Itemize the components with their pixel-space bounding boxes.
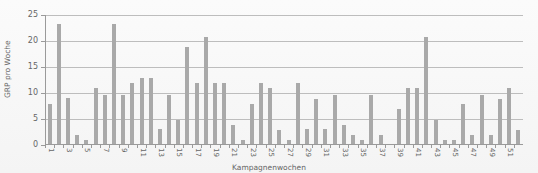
bar-week-26 bbox=[277, 130, 281, 145]
bar-week-17 bbox=[195, 83, 199, 145]
bar-week-50 bbox=[498, 99, 502, 145]
bar-week-11 bbox=[140, 78, 144, 145]
bar-week-29 bbox=[305, 129, 309, 145]
x-tick-mark bbox=[238, 145, 239, 148]
bar-week-46 bbox=[461, 104, 465, 145]
x-tick-label: 39 bbox=[396, 148, 403, 157]
x-axis-label: Kampagnenwochen bbox=[0, 163, 538, 172]
bar-week-20 bbox=[222, 83, 226, 145]
bar-week-48 bbox=[480, 95, 484, 145]
x-tick-mark bbox=[376, 145, 377, 148]
x-tick-label: 19 bbox=[212, 148, 219, 157]
bar-week-8 bbox=[112, 24, 116, 145]
x-tick-label: 41 bbox=[414, 148, 421, 157]
x-tick-label: 13 bbox=[157, 148, 164, 157]
bar-week-21 bbox=[231, 125, 235, 145]
gridline bbox=[45, 41, 523, 42]
x-tick-label: 29 bbox=[304, 148, 311, 157]
gridline bbox=[45, 119, 523, 120]
bar-week-16 bbox=[185, 47, 189, 145]
bar-week-23 bbox=[250, 104, 254, 145]
y-tick-label: 10 bbox=[14, 89, 38, 97]
x-tick-label: 1 bbox=[47, 148, 54, 152]
x-tick-mark bbox=[192, 145, 193, 148]
x-tick-label: 35 bbox=[359, 148, 366, 157]
bar-week-7 bbox=[103, 95, 107, 145]
bar-week-25 bbox=[268, 88, 272, 145]
x-tick-label: 51 bbox=[506, 148, 513, 157]
x-tick-label: 15 bbox=[175, 148, 182, 157]
bar-week-30 bbox=[314, 99, 318, 145]
x-tick-mark bbox=[477, 145, 478, 148]
bar-week-28 bbox=[296, 83, 300, 145]
bar-week-31 bbox=[323, 129, 327, 145]
gridline bbox=[45, 93, 523, 94]
x-tick-mark bbox=[330, 145, 331, 148]
x-tick-mark bbox=[284, 145, 285, 148]
x-tick-label: 27 bbox=[286, 148, 293, 157]
x-tick-label: 49 bbox=[488, 148, 495, 157]
x-tick-label: 33 bbox=[341, 148, 348, 157]
x-tick-label: 23 bbox=[249, 148, 256, 157]
plot-area bbox=[45, 15, 523, 145]
x-tick-mark bbox=[431, 145, 432, 148]
bar-week-33 bbox=[342, 125, 346, 145]
x-tick-mark bbox=[137, 145, 138, 148]
x-tick-label: 21 bbox=[230, 148, 237, 157]
bar-week-39 bbox=[397, 109, 401, 145]
x-tick-label: 3 bbox=[65, 148, 72, 152]
bar-week-12 bbox=[149, 78, 153, 145]
y-tick-label: 5 bbox=[14, 115, 38, 123]
bar-week-13 bbox=[158, 129, 162, 145]
y-tick-label: 0 bbox=[14, 141, 38, 149]
x-tick-label: 9 bbox=[120, 148, 127, 152]
y-tick-label: 15 bbox=[14, 63, 38, 71]
bar-week-10 bbox=[130, 83, 134, 145]
bar-week-14 bbox=[167, 95, 171, 145]
x-tick-label: 37 bbox=[378, 148, 385, 157]
gridline bbox=[45, 15, 523, 16]
y-axis-line bbox=[45, 15, 46, 145]
x-tick-label: 43 bbox=[433, 148, 440, 157]
bar-week-42 bbox=[424, 37, 428, 145]
bar-week-52 bbox=[516, 130, 520, 145]
bar-week-9 bbox=[121, 95, 125, 145]
x-tick-label: 17 bbox=[194, 148, 201, 157]
x-tick-label: 11 bbox=[139, 148, 146, 157]
bar-week-1 bbox=[48, 104, 52, 145]
x-tick-mark bbox=[100, 145, 101, 148]
bar-week-40 bbox=[406, 88, 410, 145]
bar-week-2 bbox=[57, 24, 61, 145]
x-tick-mark bbox=[45, 145, 46, 148]
bar-week-15 bbox=[176, 120, 180, 145]
bar-week-32 bbox=[333, 95, 337, 145]
x-tick-label: 7 bbox=[102, 148, 109, 152]
x-tick-label: 5 bbox=[83, 148, 90, 152]
bar-week-36 bbox=[369, 95, 373, 145]
bar-week-43 bbox=[434, 120, 438, 145]
x-tick-label: 45 bbox=[451, 148, 458, 157]
x-tick-mark bbox=[422, 145, 423, 148]
bar-week-6 bbox=[94, 88, 98, 145]
x-tick-mark bbox=[183, 145, 184, 148]
x-tick-mark bbox=[339, 145, 340, 148]
bar-week-24 bbox=[259, 83, 263, 145]
bar-week-18 bbox=[204, 37, 208, 145]
bar-week-51 bbox=[507, 88, 511, 145]
gridline bbox=[45, 67, 523, 68]
y-tick-label: 20 bbox=[14, 37, 38, 45]
x-tick-label: 31 bbox=[322, 148, 329, 157]
bar-week-41 bbox=[415, 88, 419, 145]
x-tick-label: 25 bbox=[267, 148, 274, 157]
bar-week-19 bbox=[213, 83, 217, 145]
y-tick-label: 25 bbox=[14, 11, 38, 19]
x-tick-mark bbox=[91, 145, 92, 148]
y-axis-label: GRP pro Woche bbox=[3, 40, 12, 98]
x-tick-label: 47 bbox=[469, 148, 476, 157]
bar-week-3 bbox=[66, 98, 70, 145]
